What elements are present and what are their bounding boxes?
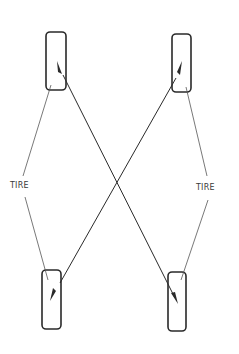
arrow-icon-front-left bbox=[57, 61, 62, 74]
leader-line-right-top bbox=[186, 87, 207, 176]
tire-front-left bbox=[46, 32, 66, 90]
rotation-line-rear-left-to-front-right bbox=[60, 78, 176, 283]
arrow-icon-front-right bbox=[177, 61, 182, 75]
tire-rotation-diagram bbox=[0, 0, 239, 354]
leader-line-left-bottom bbox=[25, 197, 48, 280]
arrow-icon-rear-right bbox=[171, 292, 178, 304]
leader-line-right-bottom bbox=[181, 200, 208, 280]
tire-rear-left bbox=[42, 270, 61, 329]
leader-line-left-top bbox=[23, 85, 51, 176]
arrow-icon-rear-left bbox=[50, 288, 56, 301]
tire-label-right: TIRE bbox=[196, 183, 215, 193]
tire-label-left: TIRE bbox=[10, 181, 29, 191]
